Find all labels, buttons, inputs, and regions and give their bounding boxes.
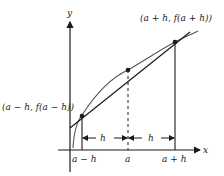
tick-a: a bbox=[125, 154, 130, 164]
x-axis-label: x bbox=[203, 145, 208, 155]
h-label-left: h bbox=[100, 133, 106, 143]
point-right bbox=[173, 40, 178, 45]
diagram-canvas: y x (a − h, f(a − h)) (a + h, f(a + h)) … bbox=[0, 0, 224, 176]
h-label-right: h bbox=[148, 133, 154, 143]
y-axis-label: y bbox=[66, 8, 73, 18]
secant-line bbox=[70, 32, 190, 128]
label-left-point: (a − h, f(a − h)) bbox=[2, 102, 74, 112]
function-curve bbox=[73, 31, 198, 148]
tick-a-minus-h: a − h bbox=[72, 154, 96, 164]
point-middle bbox=[126, 68, 131, 73]
label-right-point: (a + h, f(a + h)) bbox=[140, 13, 212, 23]
tick-a-plus-h: a + h bbox=[162, 154, 186, 164]
point-left bbox=[80, 114, 85, 119]
